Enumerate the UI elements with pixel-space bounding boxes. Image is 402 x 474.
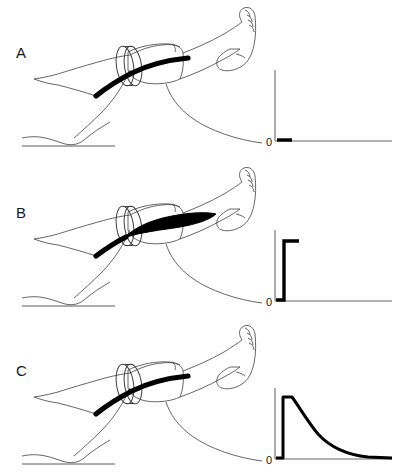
torso-top-b: [58, 215, 130, 234]
upper-body-left-b: [34, 234, 58, 239]
tendon-rod-c: [96, 376, 188, 414]
calf-drop-c: [166, 402, 262, 461]
ankle-crease-b: [236, 214, 245, 218]
thigh-top-c: [130, 363, 180, 373]
tendon-rod-a: [96, 58, 188, 96]
origin-label-c: 0: [266, 454, 272, 466]
shank-top-a: [183, 22, 242, 53]
figure-canvas: A: [0, 0, 402, 474]
calf-drop-b: [166, 244, 262, 303]
upper-body-left-c: [34, 392, 58, 397]
signal-line-c: [276, 397, 392, 458]
body-contour-c: [22, 440, 110, 463]
lower-torso-c: [58, 403, 96, 414]
shank-top-b: [183, 182, 242, 213]
tendon-rod-inflated-b: [96, 213, 216, 256]
panel-c: C: [0, 318, 402, 474]
shank-bottom-c: [180, 367, 240, 397]
lower-torso-a: [58, 85, 96, 96]
trace-plot-a: [275, 70, 392, 141]
trace-plot-b: [275, 230, 392, 301]
panel-b: B: [0, 160, 402, 318]
inflated-bulge-b: [124, 213, 216, 238]
torso-top-a: [58, 55, 130, 74]
ankle-crease-a: [236, 54, 245, 58]
calf-drop-a: [166, 84, 262, 143]
lower-torso-b: [58, 245, 96, 256]
panel-b-graphics: 0: [0, 160, 402, 318]
leg-illustration-a: [22, 7, 262, 146]
torso-top-c: [58, 373, 130, 392]
shank-top-c: [183, 340, 242, 371]
upper-body-left2-a: [34, 79, 58, 85]
panel-a: A: [0, 0, 402, 158]
signal-line-b: [276, 241, 299, 300]
panel-a-graphics: 0: [0, 0, 402, 158]
thigh-top-b: [130, 205, 180, 215]
body-contour-a: [22, 122, 110, 145]
body-contour-b: [22, 282, 110, 305]
origin-label-a: 0: [266, 136, 272, 148]
leg-illustration-c: [22, 325, 262, 464]
trace-plot-c: [275, 388, 392, 459]
origin-label-b: 0: [266, 296, 272, 308]
thigh-top-a: [130, 45, 180, 55]
shank-bottom-a: [180, 49, 240, 79]
upper-body-left2-c: [34, 397, 58, 403]
ankle-crease-c: [236, 372, 245, 376]
leg-illustration-b: [22, 167, 262, 306]
upper-body-left-a: [34, 74, 58, 79]
panel-c-graphics: 0: [0, 318, 402, 474]
upper-body-left2-b: [34, 239, 58, 245]
